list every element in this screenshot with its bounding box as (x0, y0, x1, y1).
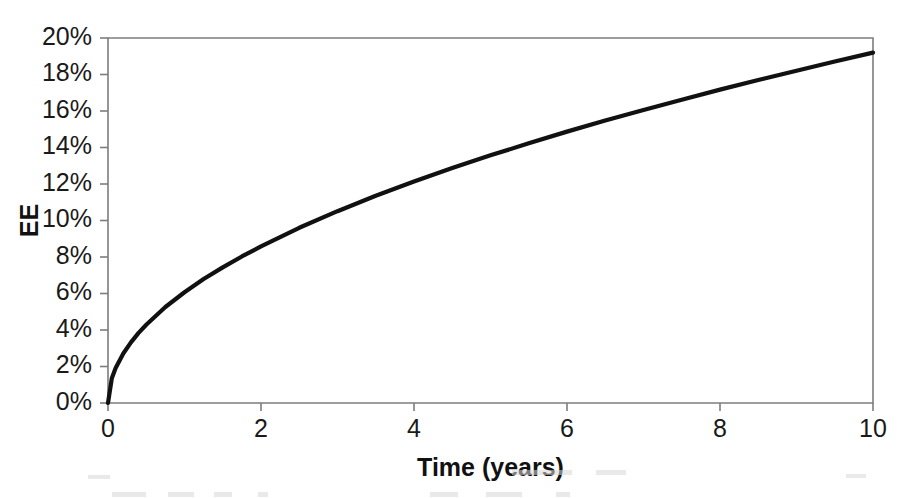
y-tick-label: 14% (42, 131, 92, 159)
y-tick-label: 10% (42, 204, 92, 232)
x-tick-label: 4 (407, 414, 421, 442)
y-tick-label: 16% (42, 95, 92, 123)
y-tick-label: 4% (56, 314, 92, 342)
x-axis-title: Time (years) (417, 453, 564, 481)
y-tick-label: 2% (56, 350, 92, 378)
x-tick-label: 8 (713, 414, 727, 442)
chart-figure: 0%2%4%6%8%10%12%14%16%18%20% 0246810 EE … (0, 0, 912, 498)
line-chart: 0%2%4%6%8%10%12%14%16%18%20% 0246810 EE … (0, 0, 912, 498)
y-axis-title: EE (15, 204, 43, 237)
y-tick-label: 0% (56, 387, 92, 415)
x-tick-label: 0 (101, 414, 115, 442)
y-tick-label: 18% (42, 58, 92, 86)
y-tick-label: 6% (56, 277, 92, 305)
y-tick-label: 20% (42, 22, 92, 50)
x-tick-label: 6 (560, 414, 574, 442)
x-tick-label: 10 (859, 414, 887, 442)
y-tick-label: 8% (56, 241, 92, 269)
y-tick-label: 12% (42, 168, 92, 196)
x-tick-label: 2 (254, 414, 268, 442)
